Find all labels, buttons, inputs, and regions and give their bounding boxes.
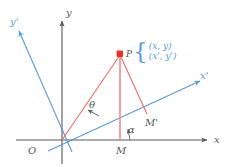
y-axis-label: y [66,8,72,18]
coordinate-brace: { [133,42,148,62]
point-p-marker [117,51,123,57]
angle-alpha-label: α [128,125,135,135]
point-m-prime-label: M' [145,118,158,128]
y-prime-axis [19,31,72,152]
origin-label: O [28,146,36,156]
coordinate-original: (x, y) [149,41,177,51]
diagram-canvas [0,0,230,167]
coordinate-rows: (x, y) (x', y') [149,41,177,62]
point-m-label: M [116,146,126,156]
point-p-coordinates: { (x, y) (x', y') [133,41,177,62]
angle-theta-label: θ [89,100,95,110]
y-prime-axis-label: y' [10,17,18,27]
segment-p-to-m-prime [120,55,147,114]
x-prime-axis-label: x' [200,71,208,81]
coordinate-rotated: (x', y') [149,51,177,61]
point-p-label: P [126,50,132,59]
x-axis-label: x [214,135,220,145]
coordinate-axis-rotation-diagram: x y x' y' O P M M' θ α { (x, y) (x', y') [0,0,230,167]
segment-origin-to-p [62,55,120,140]
theta-pointer [88,110,99,116]
